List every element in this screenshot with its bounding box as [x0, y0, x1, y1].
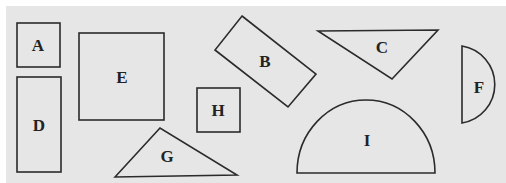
label-f: F	[474, 78, 484, 97]
shape-b: B	[215, 16, 316, 107]
shapes-diagram: A B C D E F G H I	[0, 0, 506, 183]
shape-e: E	[79, 33, 164, 120]
label-e: E	[116, 68, 127, 87]
shape-d: D	[17, 77, 61, 172]
label-c: C	[376, 38, 388, 57]
label-g: G	[160, 147, 173, 166]
shape-g: G	[115, 128, 237, 177]
shape-i: I	[297, 100, 435, 173]
label-h: H	[211, 101, 224, 120]
shape-a: A	[17, 23, 60, 67]
shape-c: C	[318, 30, 438, 79]
label-a: A	[32, 36, 45, 55]
label-b: B	[259, 52, 270, 71]
shape-f: F	[462, 46, 495, 123]
shape-h: H	[197, 88, 240, 132]
label-i: I	[364, 131, 371, 150]
label-d: D	[33, 116, 45, 135]
